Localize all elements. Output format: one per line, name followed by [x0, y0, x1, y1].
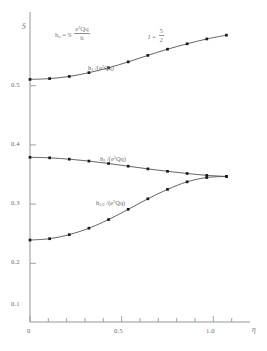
data-point: [48, 156, 51, 159]
chart-canvas: S η 0.5 0.4 0.3 0.2 0.1 0 0.5 1.0 ha = S…: [0, 0, 267, 351]
curve-path-h1_over_e2Qq: [30, 35, 226, 79]
data-point: [205, 38, 208, 41]
y-tick-label-0.5: 0.5: [11, 81, 20, 88]
formula-denominator: h: [74, 34, 89, 41]
data-point: [166, 170, 169, 173]
formula-lhs-subscript: a: [58, 34, 60, 39]
formula-fraction: e²Qq h: [74, 26, 89, 41]
data-point: [225, 34, 228, 37]
data-point: [29, 239, 32, 242]
data-point: [166, 188, 169, 191]
data-point: [147, 197, 150, 200]
y-tick-label-0.1: 0.1: [11, 300, 20, 307]
curve-label-h2: h2 /(e2Qq): [100, 155, 126, 163]
x-tick-label-0: 0: [27, 327, 31, 334]
data-series-layer: [29, 34, 228, 242]
y-axis-label: S: [22, 22, 26, 31]
series-h3_over_e2Qq: [29, 175, 228, 241]
data-point: [68, 75, 71, 78]
data-point: [147, 168, 150, 171]
x-tick-label-0.5: 0.5: [114, 327, 123, 334]
x-axis-ticks: [30, 316, 232, 322]
data-point: [205, 176, 208, 179]
spin-fraction: 5 2: [159, 28, 164, 43]
data-point: [127, 61, 130, 64]
spin-symbol: I: [148, 33, 150, 40]
data-point: [88, 160, 91, 163]
y-tick-label-0.2: 0.2: [11, 258, 20, 265]
curve-label-h1: h1 /(e2Qq): [88, 64, 114, 72]
data-point: [186, 180, 189, 183]
data-point: [107, 218, 110, 221]
curve-label-h3: h3/2 /(e2Qq): [96, 199, 125, 207]
y-tick-label-0.3: 0.3: [11, 199, 20, 206]
y-tick-label-0.4: 0.4: [11, 140, 20, 147]
axes-group: [30, 12, 250, 322]
data-point: [48, 77, 51, 80]
spin-numerator: 5: [159, 28, 164, 36]
y-axis-ticks: [30, 86, 36, 322]
data-point: [186, 172, 189, 175]
formula-equals: = S: [62, 31, 71, 38]
data-point: [29, 78, 32, 81]
plot-svg: [0, 0, 267, 351]
data-point: [186, 42, 189, 45]
data-point: [68, 158, 71, 161]
data-point: [147, 54, 150, 57]
series-h2_over_e2Qq: [29, 156, 228, 178]
data-point: [225, 175, 228, 178]
definition-formula-annotation: ha = S e²Qq h: [55, 26, 91, 41]
data-point: [29, 156, 32, 159]
x-axis-label: η: [252, 325, 256, 334]
data-point: [88, 227, 91, 230]
formula-numerator: e²Qq: [74, 26, 89, 34]
data-point: [68, 233, 71, 236]
x-tick-label-1.0: 1.0: [206, 327, 215, 334]
data-point: [127, 208, 130, 211]
spin-value-annotation: I = 5 2: [148, 28, 165, 43]
data-point: [127, 165, 130, 168]
data-point: [166, 48, 169, 51]
data-point: [48, 237, 51, 240]
spin-equals: =: [152, 33, 156, 40]
spin-denominator: 2: [159, 36, 164, 43]
